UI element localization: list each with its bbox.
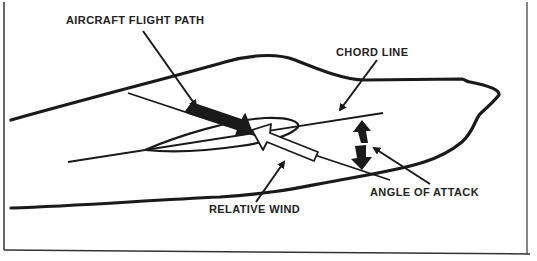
relative-wind-label: RELATIVE WIND xyxy=(209,204,300,215)
angle-of-attack-arc-arrows xyxy=(351,120,372,170)
chord-line-label: CHORD LINE xyxy=(336,47,408,58)
angle-of-attack-label: ANGLE OF ATTACK xyxy=(370,187,479,198)
aircraft-flight-path-label: AIRCRAFT FLIGHT PATH xyxy=(66,15,204,26)
flight-path-arrow xyxy=(186,103,252,135)
diagram-frame: AIRCRAFT FLIGHT PATH CHORD LINE ANGLE OF… xyxy=(0,0,537,261)
angle-of-attack-diagram xyxy=(0,0,537,261)
relative-wind-arrow xyxy=(252,124,318,161)
